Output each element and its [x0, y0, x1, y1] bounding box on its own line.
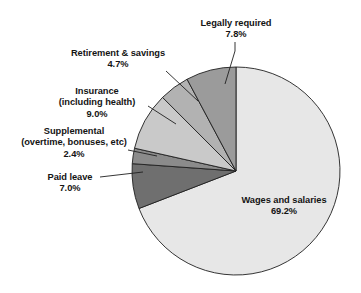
slice-label-insurance-name: Insurance	[40, 86, 154, 97]
slice-label-wages-and-salaries-value: 69.2%	[232, 206, 336, 217]
slice-label-retirement-savings: Retirement & savings 4.7%	[62, 48, 174, 71]
slice-label-supplemental-name: Supplemental	[6, 126, 142, 137]
slice-label-legally-required-value: 7.8%	[182, 29, 290, 40]
slice-label-supplemental: Supplemental (overtime, bonuses, etc) 2.…	[6, 126, 142, 160]
slice-label-insurance-subtitle: (including health)	[40, 97, 154, 108]
slice-label-paid-leave-name: Paid leave	[30, 172, 110, 183]
slice-label-retirement-savings-value: 4.7%	[62, 59, 174, 70]
slice-label-retirement-savings-name: Retirement & savings	[62, 48, 174, 59]
slice-label-insurance-value: 9.0%	[40, 109, 154, 120]
slice-label-paid-leave-value: 7.0%	[30, 183, 110, 194]
slice-label-supplemental-value: 2.4%	[6, 149, 142, 160]
slice-label-legally-required: Legally required 7.8%	[182, 18, 290, 41]
slice-label-paid-leave: Paid leave 7.0%	[30, 172, 110, 195]
slice-label-wages-and-salaries: Wages and salaries 69.2%	[232, 195, 336, 218]
slice-label-insurance: Insurance (including health) 9.0%	[40, 86, 154, 120]
slice-label-supplemental-subtitle: (overtime, bonuses, etc)	[6, 137, 142, 148]
pie-slices-group	[132, 67, 340, 275]
slice-label-legally-required-name: Legally required	[182, 18, 290, 29]
slice-label-wages-and-salaries-name: Wages and salaries	[232, 195, 336, 206]
pie-chart-figure: Legally required 7.8% Retirement & savin…	[0, 0, 361, 293]
